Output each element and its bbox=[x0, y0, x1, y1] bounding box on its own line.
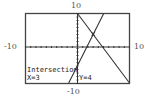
graph-screen: Intersection X=3 Y=4 bbox=[0, 0, 153, 106]
intersection-title: Intersection bbox=[27, 66, 78, 74]
y-value: Y=4 bbox=[79, 74, 92, 82]
x-value: X=3 bbox=[27, 74, 40, 82]
